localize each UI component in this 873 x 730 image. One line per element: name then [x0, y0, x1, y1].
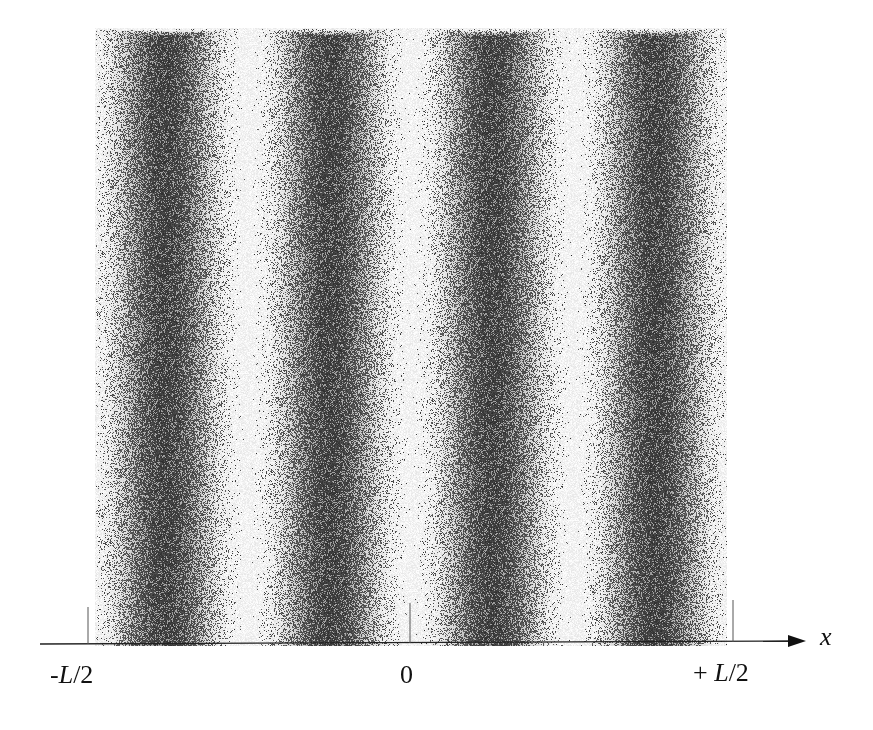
tick-label-minus-half-L: -L/2 — [50, 660, 93, 690]
tick-label-zero: 0 — [400, 660, 413, 690]
axis-label-x: x — [820, 622, 832, 652]
axis-arrow-icon — [788, 635, 806, 647]
tick-label-plus-half-L: + L/2 — [693, 658, 749, 688]
fringe-pattern — [95, 28, 727, 646]
